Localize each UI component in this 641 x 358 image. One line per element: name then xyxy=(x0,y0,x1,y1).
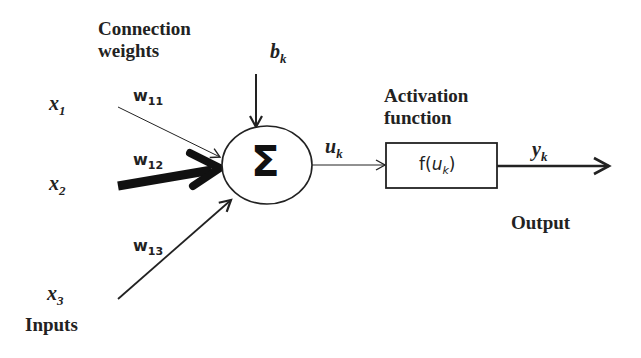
connection-weights-label: Connection weights xyxy=(98,18,191,62)
inputs-label: Inputs xyxy=(25,314,78,336)
activation-function-expression: f(uk) xyxy=(419,154,455,177)
summation-symbol: Σ xyxy=(251,137,280,186)
neuron-diagram-graphics xyxy=(0,0,641,358)
output-yk-label: yk xyxy=(532,138,547,165)
weight-w13-label: w13 xyxy=(133,236,163,258)
weight-w12-label: w12 xyxy=(133,150,163,172)
net-input-uk-label: uk xyxy=(325,135,343,162)
bias-label: bk xyxy=(270,40,287,67)
activation-function-label: Activation function xyxy=(384,85,468,129)
input-x3-label: x3 xyxy=(47,282,64,309)
weight-w11-label: w11 xyxy=(133,86,163,108)
input-x1-label: x1 xyxy=(49,92,66,119)
input-x2-label: x2 xyxy=(49,172,66,199)
output-label: Output xyxy=(511,212,570,234)
